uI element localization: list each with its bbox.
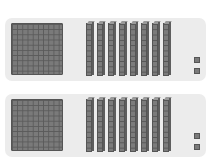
block-panel: [5, 94, 206, 157]
ten-rod: [108, 23, 114, 76]
unit-cube: [194, 57, 200, 63]
block-panel: [5, 18, 206, 81]
ten-rod: [86, 23, 92, 76]
ten-rod: [141, 23, 147, 76]
unit-cube: [194, 68, 200, 74]
ten-rod: [130, 23, 136, 76]
ten-rod: [119, 99, 125, 152]
ten-rod: [152, 99, 158, 152]
ten-rod: [86, 99, 92, 152]
hundred-flat: [11, 99, 63, 151]
ten-rod: [108, 99, 114, 152]
hundred-flat: [11, 23, 63, 75]
unit-cube: [194, 144, 200, 150]
ten-rod: [163, 99, 169, 152]
ten-rod: [152, 23, 158, 76]
ten-rod: [163, 23, 169, 76]
ten-rod: [97, 99, 103, 152]
ten-rod: [97, 23, 103, 76]
ten-rod: [141, 99, 147, 152]
unit-cube: [194, 133, 200, 139]
ten-rod: [130, 99, 136, 152]
ten-rod: [119, 23, 125, 76]
